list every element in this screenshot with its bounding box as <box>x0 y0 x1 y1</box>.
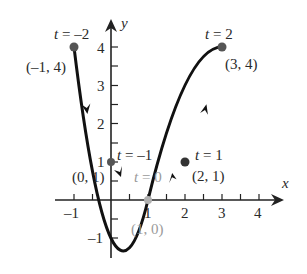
x-axis-label: x <box>281 175 289 191</box>
x-tick-label: 2 <box>181 205 189 221</box>
direction-arrow-icon <box>167 172 177 182</box>
point-t-2 <box>218 43 227 52</box>
point-t-1 <box>181 158 190 167</box>
t-label: t = 1 <box>195 147 223 163</box>
x-tick-label: 4 <box>254 205 262 221</box>
coord-label: (0, 1) <box>72 169 105 186</box>
x-axis <box>55 194 284 206</box>
t-label: t = 2 <box>205 26 233 42</box>
y-tick-label: 1 <box>97 154 105 170</box>
y-axis <box>105 19 118 258</box>
coord-label: (–1, 4) <box>26 59 66 76</box>
parametric-diagram: x y –1 1 2 3 4 –1 1 2 3 4 t = –2 (–1, 4)… <box>0 0 307 274</box>
point-t-0 <box>144 196 152 204</box>
direction-arrow-icon <box>114 166 122 177</box>
coord-label: (3, 4) <box>225 56 258 73</box>
x-tick-label: 3 <box>218 205 226 221</box>
coord-label: (2, 1) <box>192 168 225 185</box>
t-label: t = 0 <box>134 169 162 185</box>
y-tick-label: –1 <box>87 230 103 246</box>
y-tick-label: 4 <box>97 40 105 56</box>
point-t-neg2 <box>70 43 79 52</box>
coord-label: (1, 0) <box>131 221 164 238</box>
t-label: t = –1 <box>117 147 152 163</box>
y-tick-label: 3 <box>97 78 105 94</box>
t-label: t = –2 <box>54 26 89 42</box>
y-tick-label: 2 <box>97 116 105 132</box>
direction-arrow-icon <box>200 103 210 115</box>
y-axis-label: y <box>119 15 128 31</box>
point-t-neg1 <box>107 158 115 166</box>
x-tick-label: –1 <box>63 205 79 221</box>
